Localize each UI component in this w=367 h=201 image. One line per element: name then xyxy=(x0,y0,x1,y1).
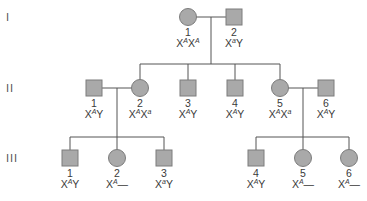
male-symbol-II-3 xyxy=(180,80,196,96)
individual-label-I-2: 2XaY xyxy=(212,27,256,49)
female-symbol-III-6 xyxy=(341,150,358,167)
male-symbol-III-4 xyxy=(248,150,264,166)
generation-label-II: II xyxy=(6,82,14,94)
female-symbol-III-5 xyxy=(295,150,312,167)
female-symbol-I-1 xyxy=(180,9,197,26)
genotype-label: XA— xyxy=(281,179,325,190)
individual-label-III-1: 1XAY xyxy=(48,168,92,190)
male-symbol-II-6 xyxy=(318,80,334,96)
individual-label-III-6: 6XA— xyxy=(327,168,367,190)
genotype-label: XAY xyxy=(48,179,92,190)
male-symbol-II-4 xyxy=(227,80,243,96)
genotype-label: XA— xyxy=(327,179,367,190)
genotype-label: XAY xyxy=(213,109,257,120)
individual-label-III-3: 3XaY xyxy=(142,168,186,190)
genotype-label: XAXa xyxy=(258,109,302,120)
genotype-label: XAY xyxy=(166,109,210,120)
individual-label-III-2: 2XA— xyxy=(95,168,139,190)
individual-label-II-6: 6XAY xyxy=(304,98,348,120)
male-symbol-II-1 xyxy=(86,80,102,96)
female-symbol-III-2 xyxy=(109,150,126,167)
individual-label-II-2: 2XAXa xyxy=(118,98,162,120)
individual-label-III-4: 4XAY xyxy=(234,168,278,190)
male-symbol-III-3 xyxy=(156,150,172,166)
individual-label-II-5: 5XAXa xyxy=(258,98,302,120)
genotype-label: XaY xyxy=(142,179,186,190)
genotype-label: XA— xyxy=(95,179,139,190)
genotype-label: XaY xyxy=(212,38,256,49)
individual-label-II-1: 1XAY xyxy=(72,98,116,120)
individual-label-III-5: 5XA— xyxy=(281,168,325,190)
genotype-label: XAY xyxy=(234,179,278,190)
genotype-label: XAY xyxy=(72,109,116,120)
individual-label-I-1: 1XAXA xyxy=(166,27,210,49)
generation-label-I: I xyxy=(6,11,10,23)
male-symbol-III-1 xyxy=(62,150,78,166)
female-symbol-II-5 xyxy=(272,80,289,97)
individual-label-II-3: 3XAY xyxy=(166,98,210,120)
genotype-label: XAXA xyxy=(166,38,210,49)
genotype-label: XAY xyxy=(304,109,348,120)
female-symbol-II-2 xyxy=(132,80,149,97)
individual-label-II-4: 4XAY xyxy=(213,98,257,120)
genotype-label: XAXa xyxy=(118,109,162,120)
male-symbol-I-2 xyxy=(226,9,242,25)
generation-label-III: III xyxy=(6,152,18,164)
